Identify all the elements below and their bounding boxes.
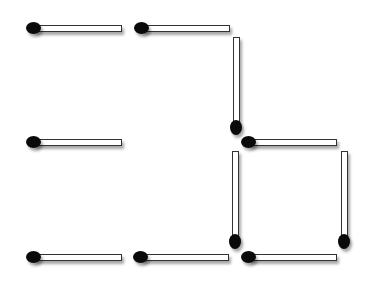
match-head-icon [26, 136, 41, 148]
match-stick-body [34, 139, 122, 146]
match-stick-body [249, 254, 337, 261]
match-stick-body [141, 254, 229, 261]
match-head-icon [241, 251, 256, 263]
matchstick-m6[interactable] [229, 151, 241, 249]
match-stick-body [233, 37, 240, 127]
matchstick-m3[interactable] [230, 37, 242, 135]
matchstick-m7[interactable] [338, 151, 350, 249]
matchstick-m8[interactable] [26, 251, 122, 263]
matchstick-m1[interactable] [26, 22, 122, 34]
match-stick-body [34, 25, 122, 32]
match-head-icon [338, 234, 350, 249]
match-stick-body [341, 151, 348, 241]
match-stick-body [249, 139, 337, 146]
match-head-icon [229, 234, 241, 249]
matchstick-m2[interactable] [134, 22, 230, 34]
match-head-icon [241, 136, 256, 148]
match-head-icon [26, 251, 41, 263]
match-head-icon [133, 251, 148, 263]
match-head-icon [26, 22, 41, 34]
matchstick-m9[interactable] [133, 251, 229, 263]
matchstick-m10[interactable] [241, 251, 337, 263]
matchstick-m4[interactable] [26, 136, 122, 148]
match-stick-body [142, 25, 230, 32]
match-head-icon [230, 120, 242, 135]
matchstick-m5[interactable] [241, 136, 337, 148]
match-stick-body [232, 151, 239, 241]
match-head-icon [134, 22, 149, 34]
match-stick-body [34, 254, 122, 261]
